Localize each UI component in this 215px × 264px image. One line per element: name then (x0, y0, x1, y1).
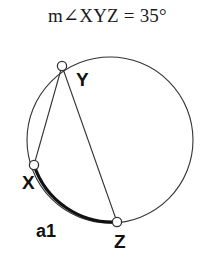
vertex-marker-y (57, 61, 66, 70)
chord-yz (62, 66, 117, 222)
circle-outline (27, 57, 193, 223)
arc-label-a1: a1 (36, 222, 56, 240)
point-label-x: X (22, 173, 35, 192)
diagram-canvas (0, 0, 215, 264)
geometry-figure: m∠XYZ = 35° Y X Z a1 (0, 0, 215, 264)
chord-yx (34, 66, 62, 165)
vertex-marker-x (29, 160, 38, 169)
point-label-z: Z (114, 232, 126, 251)
point-label-y: Y (76, 70, 89, 89)
vertex-marker-z (112, 217, 121, 226)
